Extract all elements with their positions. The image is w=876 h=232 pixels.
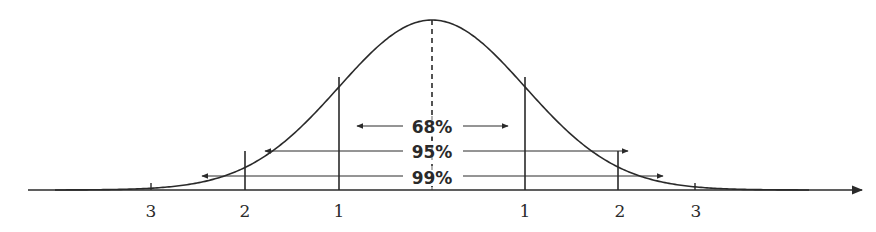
normal-distribution-diagram: 68% 95% 99% 3 2 1 1 2 3 <box>0 0 876 232</box>
tick-label-right-3: 3 <box>691 201 702 221</box>
tick-label-right-1: 1 <box>520 201 531 221</box>
tick-label-left-1: 1 <box>334 201 345 221</box>
diagram-canvas: 68% 95% 99% 3 2 1 1 2 3 <box>0 0 876 232</box>
tick-label-left-2: 2 <box>240 201 251 221</box>
tick-label-left-3: 3 <box>146 201 157 221</box>
tick-label-right-2: 2 <box>615 201 626 221</box>
